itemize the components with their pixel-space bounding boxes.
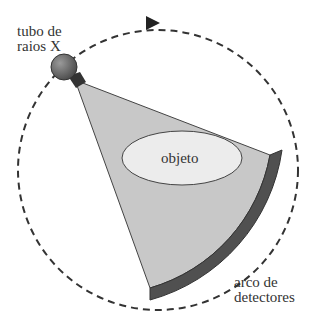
tube-label: tubo de raios X [17,24,62,54]
ct-diagram: tubo de raios X objeto arco de detectore… [0,0,313,321]
tube-label-line2: raios X [17,39,62,54]
detectors-label-line2: detectores [234,290,295,305]
tube-label-line1: tubo de [17,24,62,39]
rotation-arrow-icon [146,16,160,30]
detectors-label-line1: arco de [234,275,295,290]
xray-tube-icon [51,54,77,80]
detectors-label: arco de detectores [234,275,295,305]
object-label: objeto [161,151,199,166]
